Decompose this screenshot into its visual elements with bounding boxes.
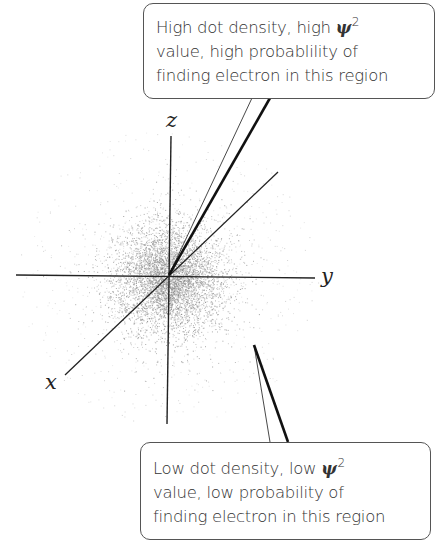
orbital-diagram: z y x High dot density, high ψ2 value, h… <box>0 0 447 558</box>
x-axis-label: x <box>45 370 57 394</box>
high-density-callout: High dot density, high ψ2 value, high pr… <box>143 3 435 99</box>
x-axis-line <box>65 172 278 375</box>
psi-symbol: ψ <box>336 18 351 37</box>
y-axis-label: y <box>321 264 333 288</box>
low-callout-line-3: finding electron in this region <box>153 505 422 529</box>
high-pointer-thick-edge <box>169 98 270 275</box>
exponent: 2 <box>352 15 359 29</box>
z-axis-label: z <box>166 108 177 132</box>
low-callout-line-2: value, low probability of <box>153 481 422 505</box>
high-callout-line-2: value, high probablility of <box>156 40 426 64</box>
low-density-callout: Low dot density, low ψ2 value, low proba… <box>140 442 431 540</box>
high-callout-line-1: High dot density, high <box>156 18 336 37</box>
exponent: 2 <box>337 456 344 470</box>
psi-symbol: ψ <box>321 459 336 478</box>
low-callout-line-1: Low dot density, low <box>153 459 321 478</box>
y-axis-line <box>16 275 315 278</box>
high-callout-line-3: finding electron in this region <box>156 64 426 88</box>
